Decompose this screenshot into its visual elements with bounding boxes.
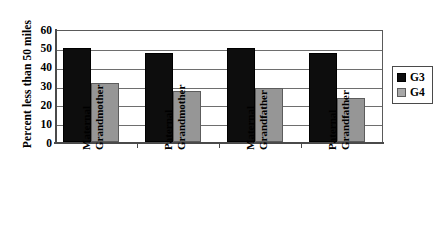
y-axis-tick-label: 0 xyxy=(26,138,52,150)
y-axis-tick-label: 40 xyxy=(26,62,52,74)
x-axis-category-label: MaternalGrandfather xyxy=(244,58,269,150)
x-axis-category-label: PaternalGrandmother xyxy=(162,58,187,150)
y-axis-tick-label: 10 xyxy=(26,119,52,131)
x-axis-tick-mark xyxy=(301,143,302,148)
legend-swatch-icon-g4 xyxy=(397,88,406,97)
x-axis-category-label: MaternalGrandmother xyxy=(80,58,105,150)
legend-item-g3: G3 xyxy=(397,70,429,85)
legend: G3 G4 xyxy=(392,66,433,104)
x-axis-category-label: PaternalGrandfather xyxy=(326,58,351,150)
legend-label-g4: G4 xyxy=(410,87,425,99)
y-axis-tick-label: 60 xyxy=(26,25,52,37)
y-axis-tick-labels: 6050403020100 xyxy=(22,0,52,244)
bar-chart: Percent less than 50 miles 6050403020100… xyxy=(0,0,441,244)
y-axis-tick-label: 30 xyxy=(26,81,52,93)
y-axis-tick-label: 50 xyxy=(26,43,52,55)
legend-swatch-icon-g3 xyxy=(397,73,406,82)
gridline xyxy=(56,50,382,51)
x-axis-tick-mark xyxy=(219,143,220,148)
legend-label-g3: G3 xyxy=(410,72,425,84)
y-axis-line xyxy=(55,29,57,144)
legend-item-g4: G4 xyxy=(397,85,429,100)
y-axis-tick-label: 20 xyxy=(26,100,52,112)
x-axis-tick-mark xyxy=(137,143,138,148)
